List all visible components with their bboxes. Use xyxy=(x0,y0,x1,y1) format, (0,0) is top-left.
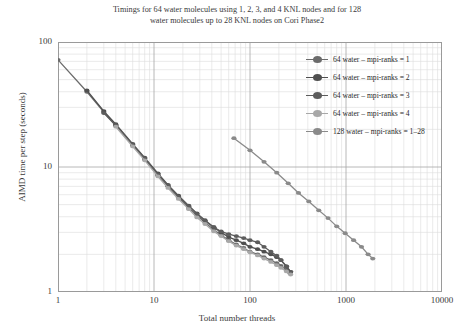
y-tick-label: 100 xyxy=(12,36,52,46)
legend-marker-icon xyxy=(306,55,328,64)
legend-label: 64 water – mpi-ranks = 4 xyxy=(333,109,410,118)
legend-label: 128 water – mpi-ranks = 1–28 xyxy=(333,127,425,136)
legend-item: 64 water – mpi-ranks = 2 xyxy=(306,68,425,86)
x-tick-label: 10000 xyxy=(412,295,472,305)
legend-marker-icon xyxy=(306,127,328,136)
series-4 xyxy=(231,136,375,260)
chart-figure: Timings for 64 water molecules using 1, … xyxy=(0,0,474,335)
chart-title-line-1: Timings for 64 water molecules using 1, … xyxy=(0,4,474,15)
legend-label: 64 water – mpi-ranks = 3 xyxy=(333,91,410,100)
x-axis-label: Total number threads xyxy=(0,313,474,323)
x-tick-label: 1 xyxy=(28,295,88,305)
legend-marker-icon xyxy=(306,91,328,100)
legend-label: 64 water – mpi-ranks = 2 xyxy=(333,73,410,82)
series-3 xyxy=(113,125,293,277)
legend-item: 64 water – mpi-ranks = 3 xyxy=(306,86,425,104)
x-tick-label: 1000 xyxy=(316,295,376,305)
chart-legend: 64 water – mpi-ranks = 164 water – mpi-r… xyxy=(306,50,425,140)
y-axis-label: AIMD time per step (seconds) xyxy=(17,47,27,247)
x-tick-label: 100 xyxy=(220,295,280,305)
y-tick-label: 10 xyxy=(12,161,52,171)
x-tick-label: 10 xyxy=(124,295,184,305)
chart-title: Timings for 64 water molecules using 1, … xyxy=(0,4,474,26)
legend-item: 64 water – mpi-ranks = 4 xyxy=(306,104,425,122)
chart-title-line-2: water molecules up to 28 KNL nodes on Co… xyxy=(0,15,474,26)
series-2 xyxy=(101,111,293,274)
legend-marker-icon xyxy=(306,109,328,118)
legend-label: 64 water – mpi-ranks = 1 xyxy=(333,55,410,64)
legend-item: 128 water – mpi-ranks = 1–28 xyxy=(306,122,425,140)
legend-marker-icon xyxy=(306,73,328,82)
legend-item: 64 water – mpi-ranks = 1 xyxy=(306,50,425,68)
